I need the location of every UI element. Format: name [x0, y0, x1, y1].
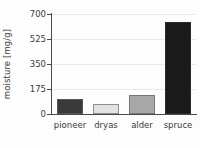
x-tick-label-alder: alder [124, 119, 160, 131]
y-tick-label-700: 700 [2, 10, 46, 18]
x-tick-label-pioneer: pioneer [52, 119, 88, 131]
y-tick-label-350: 350 [2, 60, 46, 68]
x-tick-label-dryas: dryas [88, 119, 124, 131]
y-tick-label-0: 0 [2, 110, 46, 118]
bar-chart: moisture [mg/g] 0 175 350 525 700 pionee… [0, 0, 200, 148]
bar-alder [129, 95, 155, 114]
bar-spruce [165, 22, 191, 114]
bar-pioneer [57, 99, 83, 114]
x-axis-tick-labels: pioneer dryas alder spruce [52, 119, 196, 137]
y-tick-label-175: 175 [2, 85, 46, 93]
x-axis-line [51, 114, 197, 115]
gridline-700 [52, 14, 196, 15]
x-tick-label-spruce: spruce [160, 119, 196, 131]
plot-area [52, 14, 196, 114]
y-tick-label-525: 525 [2, 35, 46, 43]
bar-dryas [93, 104, 119, 114]
y-axis-tick-labels: 0 175 350 525 700 [0, 0, 46, 148]
